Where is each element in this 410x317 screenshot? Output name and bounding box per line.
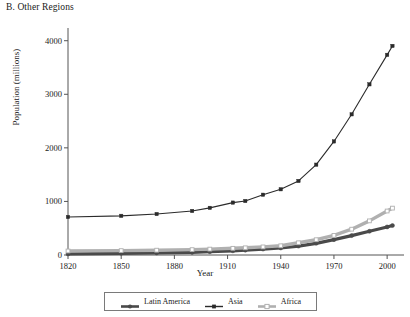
x-tick-label: 1880 (166, 261, 183, 271)
series-markers (66, 44, 394, 256)
data-point (314, 238, 318, 242)
data-point (385, 225, 389, 229)
legend-marker-icon (204, 297, 224, 306)
data-point (190, 209, 193, 212)
data-point (297, 179, 300, 182)
data-point (332, 238, 336, 242)
series-lines (68, 46, 392, 254)
y-tick-label: 4000 (18, 36, 62, 46)
legend-label: Africa (281, 297, 301, 306)
y-tick-label: 0 (18, 250, 62, 260)
data-point (350, 234, 354, 238)
series-line-africa (68, 208, 392, 251)
data-point (332, 233, 336, 237)
data-point (119, 249, 123, 253)
x-tick-label: 1850 (113, 261, 130, 271)
legend-item-asia[interactable]: Asia (204, 297, 243, 306)
data-point (385, 53, 388, 56)
legend-item-latin-america[interactable]: Latin America (120, 297, 190, 306)
data-point (315, 163, 318, 166)
data-point (119, 214, 122, 217)
data-point (231, 246, 235, 250)
data-point (297, 241, 301, 245)
data-point (244, 199, 247, 202)
x-tick-label: 1970 (325, 261, 342, 271)
data-point (261, 245, 265, 249)
data-point (155, 212, 158, 215)
series-line-asia (68, 46, 392, 217)
data-point (208, 206, 211, 209)
x-tick-label: 1820 (60, 261, 77, 271)
tick-marks (64, 41, 387, 259)
data-point (367, 229, 371, 233)
plot-area: 0100020003000400018201850188019101940197… (0, 0, 410, 317)
data-point (385, 209, 389, 213)
y-tick-label: 1000 (18, 196, 62, 206)
data-point (279, 244, 283, 248)
y-tick-label: 2000 (18, 143, 62, 153)
y-tick-label: 3000 (18, 89, 62, 99)
data-point (190, 248, 194, 252)
axis-lines (68, 28, 404, 255)
x-tick-label: 2000 (379, 261, 396, 271)
data-point (368, 83, 371, 86)
x-tick-label: 1940 (272, 261, 289, 271)
data-point (332, 140, 335, 143)
data-point (66, 249, 70, 253)
chart-legend: Latin AmericaAsiaAfrica (104, 292, 317, 311)
data-point (368, 219, 372, 223)
data-point (155, 248, 159, 252)
data-point (208, 247, 212, 251)
legend-item-africa[interactable]: Africa (257, 297, 301, 306)
legend-label: Latin America (144, 297, 190, 306)
data-point (350, 227, 354, 231)
data-point (390, 224, 394, 228)
data-point (243, 246, 247, 250)
data-point (391, 206, 395, 210)
data-point (350, 113, 353, 116)
data-point (66, 215, 69, 218)
data-point (391, 44, 394, 47)
legend-label: Asia (228, 297, 243, 306)
data-point (279, 188, 282, 191)
data-point (231, 201, 234, 204)
legend-marker-icon (120, 297, 140, 306)
data-point (261, 193, 264, 196)
legend-marker-icon (257, 297, 277, 306)
x-tick-label: 1910 (219, 261, 236, 271)
